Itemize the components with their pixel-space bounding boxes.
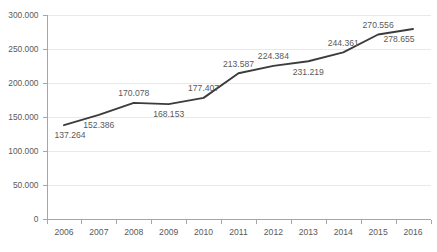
chart-canvas: 050.000100.000150.000200.000250.000300.0… [0,0,437,252]
data-point-label: 168.153 [153,109,184,119]
data-point-label: 278.655 [384,34,415,44]
x-axis-tick-label: 2016 [403,227,422,237]
data-point-label: 231.219 [293,67,324,77]
x-axis-tick-label: 2011 [229,227,248,237]
data-point-label: 244.361 [328,38,359,48]
x-axis-tick-label: 2008 [124,227,143,237]
gridlines [47,16,431,186]
y-axis-tick-label: 250.000 [8,44,39,54]
data-point-label: 170.078 [118,88,149,98]
y-axis-tick-label: 200.000 [8,78,39,88]
x-axis-tick-label: 2010 [194,227,213,237]
data-point-label: 270.556 [363,20,394,30]
data-point-label: 152.386 [83,120,114,130]
y-axis-tick-label: 150.000 [8,112,39,122]
x-axis-tick-label: 2007 [89,227,108,237]
x-axis-tick-label: 2009 [159,227,178,237]
x-axis-tick-label: 2015 [369,227,388,237]
data-point-label: 137.264 [54,130,85,140]
y-axis-tick-marks [43,16,47,220]
x-axis-tick-label: 2013 [299,227,318,237]
data-point-label: 177.407 [188,83,219,93]
data-series-line [64,29,413,125]
y-axis-tick-label: 100.000 [8,146,39,156]
x-axis-tick-label: 2006 [54,227,73,237]
y-axis-tick-labels: 050.000100.000150.000200.000250.000300.0… [8,10,39,224]
x-axis-tick-label: 2014 [334,227,353,237]
y-axis-tick-label: 50.000 [13,180,39,190]
x-axis-tick-label: 2012 [264,227,283,237]
line-chart: 050.000100.000150.000200.000250.000300.0… [0,0,437,252]
data-point-label: 224.384 [258,51,289,61]
y-axis-tick-label: 0 [34,214,39,224]
data-point-label: 213.587 [223,59,254,69]
y-axis-tick-label: 300.000 [8,10,39,20]
x-axis-tick-labels: 2006200720082009201020112012201320142015… [54,227,422,237]
x-axis-tick-marks [48,220,432,224]
data-point-labels: 137.264152.386170.078168.153177.407213.5… [54,20,414,141]
